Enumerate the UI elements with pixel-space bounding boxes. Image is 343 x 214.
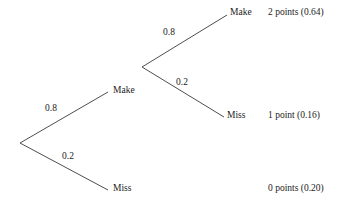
outcome-one-point: 1 point (0.16)	[268, 111, 320, 121]
probability-label-root-miss: 0.2	[62, 152, 74, 162]
outcome-zero-points: 0 points (0.20)	[268, 184, 324, 194]
outcome-two-points: 2 points (0.64)	[268, 8, 324, 18]
branch-make-to-make	[142, 15, 227, 67]
branch-make-to-miss	[142, 67, 224, 117]
branch-root-to-make	[20, 92, 108, 143]
probability-label-make-make: 0.8	[163, 28, 175, 38]
probability-label-make-miss: 0.2	[176, 78, 188, 88]
probability-label-root-make: 0.8	[45, 104, 57, 114]
probability-tree-figure: Make Miss Make Miss 0.8 0.2 0.8 0.2 2 po…	[0, 0, 343, 214]
node-label-miss-second-shot: Miss	[227, 111, 245, 121]
node-label-miss-first-shot: Miss	[113, 184, 131, 194]
node-label-make-second-shot: Make	[230, 8, 252, 18]
node-label-make-first-shot: Make	[113, 86, 135, 96]
